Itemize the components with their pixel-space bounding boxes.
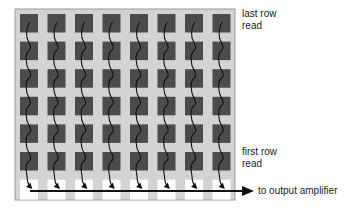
readout-register-cell — [48, 180, 66, 200]
readout-register-cell — [213, 180, 231, 200]
readout-register-cell — [158, 180, 176, 200]
first-row-read-label: first row read — [242, 146, 277, 170]
first-row-label-line2: read — [242, 158, 277, 170]
readout-register-cell — [185, 180, 203, 200]
output-amplifier-label: to output amplifier — [258, 185, 338, 197]
last-row-read-label: last row read — [242, 8, 276, 32]
readout-register-cell — [20, 180, 38, 200]
readout-register-cell — [103, 180, 121, 200]
readout-register-cell — [75, 180, 93, 200]
readout-register-cell — [130, 180, 148, 200]
last-row-label-line1: last row — [242, 8, 276, 20]
first-row-label-line1: first row — [242, 146, 277, 158]
last-row-label-line2: read — [242, 20, 276, 32]
